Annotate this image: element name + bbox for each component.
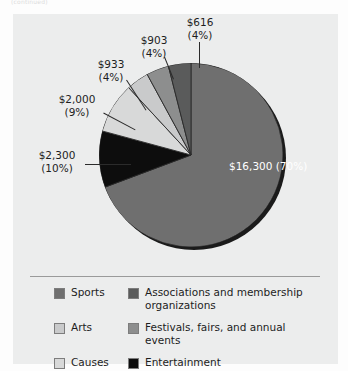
legend-divider (30, 276, 320, 277)
legend-item[interactable]: Associations and membership organization… (128, 286, 324, 311)
legend-item[interactable]: Causes (54, 356, 120, 369)
legend-swatch-icon (54, 288, 65, 299)
legend-swatch-icon (128, 323, 139, 334)
callout-933: $933 (4%) (87, 58, 135, 83)
callout-903: $903 (4%) (130, 34, 178, 59)
callout-903-percent: (4%) (130, 47, 178, 60)
pie-chart-area: $616 (4%) $903 (4%) $933 (4%) $2,000 (9%… (13, 14, 338, 272)
callout-933-percent: (4%) (87, 71, 135, 84)
callout-16300-percent: (70%) (276, 160, 308, 172)
page-root: (continued) $616 (4%) $903 (4%) (0, 0, 348, 371)
callout-903-amount: $903 (130, 34, 178, 47)
legend-item[interactable]: Festivals, fairs, and annual events (128, 321, 324, 346)
callout-16300-amount: $16,300 (229, 160, 272, 172)
pie-svg (99, 63, 283, 247)
legend-swatch-icon (54, 358, 65, 369)
callout-2000-percent: (9%) (49, 106, 105, 119)
leader-line-616 (199, 42, 200, 68)
figure-panel: $616 (4%) $903 (4%) $933 (4%) $2,000 (9%… (13, 14, 338, 364)
callout-616: $616 (4%) (176, 16, 224, 41)
legend-swatch-icon (128, 358, 139, 369)
top-caption: (continued) (11, 0, 48, 5)
legend-item-label: Causes (71, 356, 109, 369)
chart-legend: SportsAssociations and membership organi… (54, 286, 324, 369)
legend-item-label: Festivals, fairs, and annual events (145, 321, 324, 346)
leader-line-2300 (85, 164, 131, 165)
callout-933-amount: $933 (87, 58, 135, 71)
callout-616-amount: $616 (176, 16, 224, 29)
legend-item-label: Entertainment (145, 356, 221, 369)
legend-swatch-icon (54, 323, 65, 334)
legend-item[interactable]: Arts (54, 321, 120, 346)
legend-item[interactable]: Entertainment (128, 356, 324, 369)
callout-2300-amount: $2,300 (29, 149, 85, 162)
pie-slice-group (99, 63, 283, 247)
legend-item-label: Arts (71, 321, 92, 334)
legend-item[interactable]: Sports (54, 286, 120, 311)
legend-item-label: Sports (71, 286, 105, 299)
callout-2000-amount: $2,000 (49, 93, 105, 106)
legend-swatch-icon (128, 288, 139, 299)
callout-16300: $16,300 (70%) (229, 160, 295, 173)
legend-item-label: Associations and membership organization… (145, 286, 324, 311)
callout-616-percent: (4%) (176, 29, 224, 42)
callout-2300: $2,300 (10%) (29, 149, 85, 174)
pie-chart (99, 63, 283, 247)
callout-2000: $2,000 (9%) (49, 93, 105, 118)
callout-2300-percent: (10%) (29, 162, 85, 175)
